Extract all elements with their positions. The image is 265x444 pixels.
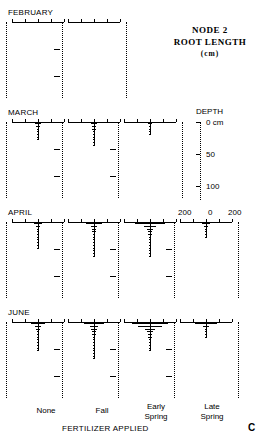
- x-tick-april-0-0: [12, 219, 13, 222]
- depth-rail-left-april-2: [118, 222, 119, 298]
- depth-rail-left-april-1: [62, 222, 63, 298]
- root-bar-april-1-12: [93, 256, 95, 257]
- x-tick-february-0-2: [38, 19, 39, 22]
- depth-rail-right-february-1: [126, 22, 127, 98]
- depth-ref-dash-june-1-0: [54, 349, 60, 350]
- x-tick-february-1-3: [107, 19, 108, 22]
- column-label-late-spring-l1: Late: [184, 402, 240, 412]
- row-label-june: JUNE: [8, 308, 30, 317]
- x-tick-june-0-1: [25, 319, 26, 322]
- root-bar-june-2-10: [149, 350, 151, 351]
- depth-tick-label-50: 50: [206, 150, 215, 159]
- depth-ref-dash-april-3-0: [166, 249, 172, 250]
- x-tick-june-0-0: [12, 319, 13, 322]
- x-tick-april-1-0: [68, 219, 69, 222]
- center-stem-march-2: [150, 122, 151, 134]
- x-tick-march-0-0: [12, 119, 13, 122]
- center-stem-march-1: [94, 122, 95, 145]
- depth-rail-left-april-0: [6, 222, 7, 298]
- column-label-early-spring-l2: Spring: [128, 412, 184, 422]
- scale-label-center: 0: [208, 208, 212, 217]
- column-label-fall-l1: Fall: [74, 406, 130, 416]
- center-stem-april-1: [94, 222, 95, 256]
- column-label-none-l1: None: [18, 406, 74, 416]
- x-tick-march-0-1: [25, 119, 26, 122]
- depth-tick-0: [196, 122, 200, 123]
- depth-rail-left-february-1: [62, 22, 63, 98]
- root-bar-june-1-13: [93, 358, 95, 359]
- center-stem-april-0: [38, 222, 39, 248]
- x-tick-june-2-3: [163, 319, 164, 322]
- column-label-late-spring-l2: Spring: [184, 412, 240, 422]
- x-tick-june-2-4: [176, 319, 177, 322]
- x-tick-february-1-2: [94, 19, 95, 22]
- row-label-february: FEBRUARY: [8, 8, 53, 17]
- depth-rail-right-march-2: [182, 122, 183, 198]
- x-tick-june-1-1: [81, 319, 82, 322]
- depth-ref-dash-april-2-0: [110, 249, 116, 250]
- depth-ref-dash-june-1-1: [54, 376, 60, 377]
- x-tick-february-0-1: [25, 19, 26, 22]
- depth-ref-dash-april-1-1: [54, 276, 60, 277]
- root-bar-march-0-6: [37, 139, 39, 140]
- depth-axis-title: DEPTH: [196, 107, 223, 116]
- root-bar-april-0-9: [37, 248, 39, 249]
- axis-top-february-none: [12, 22, 64, 23]
- x-tick-february-0-3: [51, 19, 52, 22]
- x-tick-april-3-0: [180, 219, 181, 222]
- depth-rail-left-february-0: [6, 22, 7, 98]
- depth-tick-50: [196, 154, 200, 155]
- x-tick-february-0-0: [12, 19, 13, 22]
- x-tick-june-3-4: [232, 319, 233, 322]
- title-units: (cm): [158, 48, 262, 60]
- x-tick-april-1-1: [81, 219, 82, 222]
- depth-ref-dash-march-2-1: [110, 176, 116, 177]
- depth-tick-label-0: 0 cm: [206, 118, 223, 127]
- column-label-early-spring: Early Spring: [128, 402, 184, 421]
- center-stem-june-3: [206, 322, 207, 337]
- depth-tick-label-100: 100: [206, 182, 219, 191]
- x-tick-february-0-4: [64, 19, 65, 22]
- title-line-node: NODE 2: [158, 24, 262, 36]
- depth-rail-left-march-1: [62, 122, 63, 198]
- x-tick-june-2-0: [124, 319, 125, 322]
- root-bar-april-2-12: [149, 256, 151, 257]
- depth-rail-left-march-2: [118, 122, 119, 198]
- column-label-late-spring: Late Spring: [184, 402, 240, 421]
- x-tick-february-1-1: [81, 19, 82, 22]
- center-stem-march-0: [38, 122, 39, 139]
- root-bar-june-3-5: [205, 337, 207, 338]
- x-tick-march-0-4: [64, 119, 65, 122]
- depth-ref-dash-march-1-0: [54, 149, 60, 150]
- depth-tick-100: [196, 186, 200, 187]
- x-tick-june-2-1: [137, 319, 138, 322]
- x-tick-june-1-3: [107, 319, 108, 322]
- column-label-none: None: [18, 406, 74, 416]
- depth-ref-dash-june-3-0: [166, 349, 172, 350]
- x-tick-march-1-1: [81, 119, 82, 122]
- x-tick-june-3-0: [180, 319, 181, 322]
- x-tick-march-0-3: [51, 119, 52, 122]
- root-bar-june-0-10: [37, 350, 39, 351]
- x-tick-april-3-1: [193, 219, 194, 222]
- column-label-fall: Fall: [74, 406, 130, 416]
- x-tick-june-0-4: [64, 319, 65, 322]
- depth-rail-left-june-0: [6, 322, 7, 398]
- x-tick-april-0-4: [64, 219, 65, 222]
- axis-top-february-fall: [68, 22, 120, 23]
- x-tick-june-1-0: [68, 319, 69, 322]
- depth-rail-left-april-3: [174, 222, 175, 298]
- depth-rail-left-june-2: [118, 322, 119, 398]
- root-bar-april-3-5: [205, 237, 207, 238]
- x-tick-march-2-4: [176, 119, 177, 122]
- x-tick-march-1-3: [107, 119, 108, 122]
- x-tick-june-0-3: [51, 319, 52, 322]
- x-tick-april-0-3: [51, 219, 52, 222]
- center-stem-june-1: [94, 322, 95, 358]
- row-label-march: MARCH: [8, 108, 38, 117]
- x-tick-june-1-4: [120, 319, 121, 322]
- x-tick-april-2-1: [137, 219, 138, 222]
- panel-letter: C: [248, 422, 255, 433]
- x-tick-march-2-3: [163, 119, 164, 122]
- x-tick-april-2-0: [124, 219, 125, 222]
